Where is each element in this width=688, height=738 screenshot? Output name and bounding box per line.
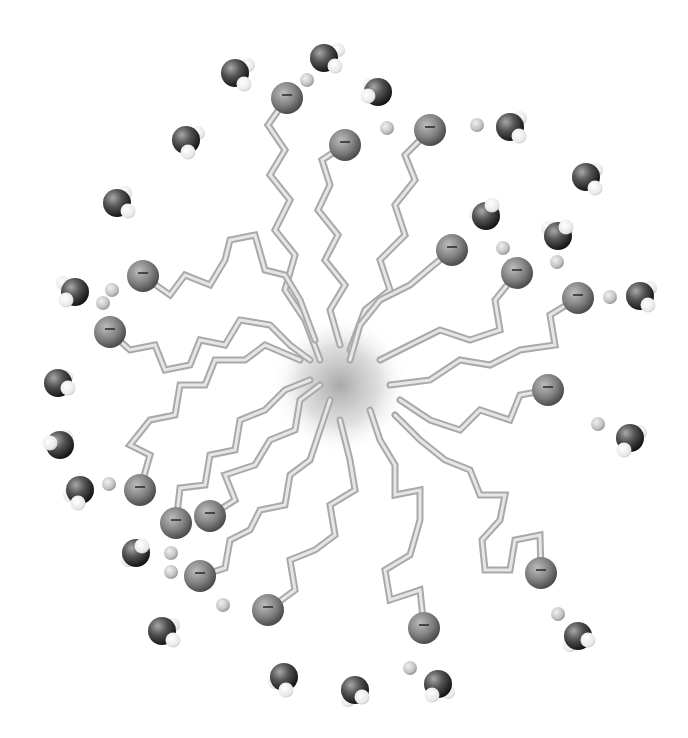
hydrogen-atom [237, 77, 252, 92]
water-molecule [103, 186, 136, 219]
water-molecule [572, 163, 603, 196]
head-sphere [252, 594, 284, 626]
counterion [470, 118, 484, 132]
anionic-head-group [160, 507, 192, 539]
anionic-head-group [408, 612, 440, 644]
hydrogen-atom [166, 633, 181, 648]
surfactant-tail-highlight [318, 145, 345, 345]
hydrogen-atom [355, 690, 370, 705]
head-sphere [532, 374, 564, 406]
water-molecule [221, 58, 255, 92]
water-molecule [361, 78, 393, 106]
anionic-head-group [329, 129, 361, 161]
surfactant-tail-highlight [268, 98, 320, 360]
water-molecule [43, 430, 75, 459]
hydrogen-atom [328, 59, 343, 74]
head-sphere [124, 474, 156, 506]
head-sphere [184, 560, 216, 592]
head-sphere [525, 557, 557, 589]
anionic-head-group [436, 234, 468, 266]
anionic-head-group [184, 560, 216, 592]
hydrogen-atom [135, 539, 150, 554]
head-sphere [127, 260, 159, 292]
hydrogen-atom [588, 181, 603, 196]
water-molecule [121, 539, 150, 568]
anionic-head-group [414, 114, 446, 146]
water-molecule [268, 663, 298, 698]
hydrogen-atom [581, 633, 596, 648]
counterion [591, 417, 605, 431]
anionic-head-group [501, 257, 533, 289]
counterion [380, 121, 394, 135]
head-sphere [329, 129, 361, 161]
water-molecule [616, 424, 647, 458]
hydrogen-atom [59, 293, 74, 308]
hydrogen-atom [71, 496, 86, 511]
head-sphere [160, 507, 192, 539]
head-sphere [271, 82, 303, 114]
anionic-head-group [127, 260, 159, 292]
head-sphere [408, 612, 440, 644]
counterion [603, 290, 617, 304]
head-sphere [94, 316, 126, 348]
anionic-head-group [525, 557, 557, 589]
hydrogen-atom [361, 89, 376, 104]
micelle-illustration [0, 0, 688, 738]
water-molecule [310, 43, 345, 74]
hydrogen-atom [181, 145, 196, 160]
head-sphere [562, 282, 594, 314]
hydrogen-atom [512, 129, 527, 144]
counterion [105, 283, 119, 297]
counterion [403, 661, 417, 675]
anionic-head-group [124, 474, 156, 506]
hydrogen-atom [559, 220, 574, 235]
counterion [496, 241, 510, 255]
hydrogen-atom [61, 381, 76, 396]
head-sphere [436, 234, 468, 266]
hydrogen-atom [279, 683, 294, 698]
hydrogen-atom [43, 436, 58, 451]
anionic-head-group [562, 282, 594, 314]
hydrogen-atom [425, 688, 440, 703]
counterion [300, 73, 314, 87]
water-molecule [563, 622, 596, 652]
hydrogen-atom [641, 298, 656, 313]
water-molecule [148, 617, 181, 648]
surfactant-tail [370, 410, 424, 628]
water-molecule [424, 670, 455, 703]
anionic-head-group [252, 594, 284, 626]
counterion [164, 546, 178, 560]
water-molecule [469, 198, 500, 231]
surfactant-tail [400, 390, 548, 430]
counterion [164, 565, 178, 579]
hydrogen-atom [617, 443, 632, 458]
water-molecule [63, 476, 94, 511]
anionic-head-group [94, 316, 126, 348]
counterion [96, 296, 110, 310]
counterion [102, 477, 116, 491]
head-sphere [414, 114, 446, 146]
water-molecule [56, 276, 89, 308]
anionic-head-group [271, 82, 303, 114]
water-molecule [172, 126, 205, 160]
water-molecule [626, 281, 657, 313]
water-molecule [341, 676, 370, 707]
head-sphere [501, 257, 533, 289]
hydrogen-atom [121, 204, 136, 219]
anionic-head-group [194, 500, 226, 532]
hydrogen-atom [485, 198, 500, 213]
water-molecule [44, 369, 76, 397]
water-molecule [496, 111, 527, 144]
anionic-head-group [532, 374, 564, 406]
counterion [216, 598, 230, 612]
counterion [551, 607, 565, 621]
counterion [550, 255, 564, 269]
head-sphere [194, 500, 226, 532]
water-molecule [541, 220, 574, 251]
micelle-diagram [0, 0, 688, 738]
